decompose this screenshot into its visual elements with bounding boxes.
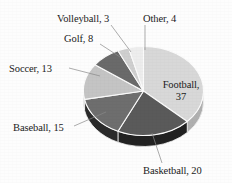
slice-label-volleyball: Volleyball, 3	[57, 13, 109, 25]
slice-label-other: Other, 4	[143, 13, 176, 25]
slice-label-baseball: Baseball, 15	[13, 122, 64, 134]
slice-label-football: Football, 37	[152, 79, 210, 103]
slice-label-football-name: Football,	[163, 79, 200, 90]
slice-label-basketball: Basketball, 20	[143, 165, 202, 177]
pie-chart-figure: Volleyball, 3 Other, 4 Golf, 8 Soccer, 1…	[0, 0, 232, 183]
leader-line-volleyball	[111, 25, 131, 52]
slice-label-football-value: 37	[176, 91, 186, 102]
slice-label-golf: Golf, 8	[64, 33, 93, 45]
slice-label-soccer: Soccer, 13	[9, 63, 52, 75]
